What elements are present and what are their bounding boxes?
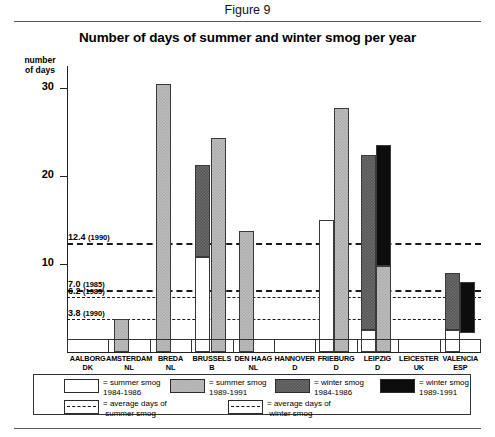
legend-text-lgray: = summer smog1989-1991 [209, 378, 267, 397]
legend-label-line2: 1984-1986 [314, 388, 352, 397]
average-year: (1985) [83, 287, 105, 296]
y-tick-label-30: 30 [20, 80, 54, 92]
category-separator-3 [191, 339, 192, 352]
legend-label-line1: = average days of [267, 399, 331, 408]
category-separator-7 [357, 339, 358, 352]
footer-divider [14, 428, 481, 429]
legend-label-line2: 1989-1991 [419, 388, 457, 397]
y-tick-30 [60, 88, 67, 89]
x-axis-line [67, 352, 481, 353]
bar-den-haag-lgray [239, 231, 254, 352]
y-axis-caption-line2: of days [25, 65, 55, 75]
bar-leipzig-black [376, 145, 391, 266]
bar-brussels-white-base [195, 257, 210, 352]
category-separator-4 [233, 339, 234, 352]
category-separator-6 [315, 339, 316, 352]
legend-swatch-average-winter [228, 400, 263, 414]
average-label-12-4: 12.4 (1990) [68, 232, 110, 242]
category-country: NL [249, 363, 258, 372]
average-label-3-8: 3.8 (1990) [68, 308, 105, 318]
average-line-12-4 [67, 243, 481, 245]
category-label-valencia: VALENCIAESP [436, 355, 485, 372]
bar-breda-lgray [156, 84, 171, 352]
bar-frieburg-white [319, 220, 334, 352]
legend-text-dgray: = winter smog1984-1986 [314, 378, 364, 397]
y-tick-label-10: 10 [20, 256, 54, 268]
category-country: B [209, 363, 214, 372]
bar-leipzig-dgray [361, 155, 376, 330]
average-value: 12.4 [68, 232, 86, 242]
legend-label-line1: = winter smog [314, 378, 364, 387]
legend-label-line1: = summer smog [209, 378, 267, 387]
category-separator-1 [108, 339, 109, 352]
y-tick-10 [60, 264, 67, 265]
category-separator-5 [274, 339, 275, 352]
figure-label: Figure 9 [0, 3, 495, 17]
average-label-6-2: 6.2 (1985) [68, 286, 105, 296]
figure-page: Figure 9 Number of days of summer and wi… [0, 0, 495, 437]
legend-text-average-summer: = average days of summer smog [103, 399, 167, 418]
bar-valencia-black [460, 282, 475, 333]
legend-text-black: = winter smog1989-1991 [419, 378, 469, 397]
bar-brussels-lgray [211, 138, 226, 352]
legend-label-line2: 1984-1986 [103, 388, 141, 397]
legend-text-white: = summer smog1984-1986 [103, 378, 161, 397]
legend-label-line1: = summer smog [103, 378, 161, 387]
average-value: 3.8 [68, 308, 81, 318]
category-country: ESP [453, 363, 467, 372]
category-separator-8 [398, 339, 399, 352]
legend-swatch-dgray [275, 379, 310, 393]
average-year: (1990) [88, 233, 110, 242]
legend-label-line2: 1989-1991 [209, 388, 247, 397]
category-country: D [334, 363, 339, 372]
category-country: NL [166, 363, 175, 372]
y-axis-caption: number of days [14, 56, 66, 75]
legend-text-average-winter: = average days of winter smog [267, 399, 331, 418]
legend-label-line2: winter smog [267, 409, 312, 418]
y-tick-20 [60, 176, 67, 177]
category-country: D [292, 363, 297, 372]
bar-brussels-dgray [195, 165, 210, 257]
bar-valencia-dgray [445, 273, 460, 330]
average-line-6-2 [67, 297, 481, 298]
y-tick-label-20: 20 [20, 168, 54, 180]
average-value: 6.2 [68, 286, 81, 296]
category-country: D [375, 363, 380, 372]
header-divider [14, 21, 481, 22]
chart-title: Number of days of summer and winter smog… [0, 30, 495, 45]
bar-frieburg-lgray [334, 108, 349, 352]
legend-swatch-black [380, 379, 415, 393]
average-line-7-0 [67, 290, 481, 292]
y-axis-caption-line1: number [24, 55, 55, 65]
legend-swatch-white [64, 379, 99, 393]
category-separator-2 [150, 339, 151, 352]
category-separator-9 [440, 339, 441, 352]
legend-label-line1: = average days of [103, 399, 167, 408]
category-country: DK [83, 363, 93, 372]
legend-swatch-lgray [170, 379, 205, 393]
average-year: (1990) [83, 309, 105, 318]
legend-label-line1: = winter smog [419, 378, 469, 387]
category-country: UK [414, 363, 424, 372]
category-country: NL [124, 363, 133, 372]
legend-label-line2: summer smog [103, 409, 156, 418]
legend-swatch-average-summer [64, 400, 99, 414]
